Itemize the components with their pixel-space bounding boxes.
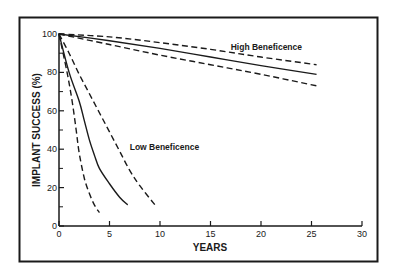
x-tick-label: 10 [155, 229, 165, 239]
annotation-1: Low Beneficence [130, 142, 200, 152]
y-tick-label: 100 [42, 29, 57, 39]
series-line-1 [59, 34, 317, 74]
chart: 051015202530020406080100 High Beneficenc… [0, 0, 395, 276]
chart-frame [20, 18, 378, 262]
x-tick-label: 0 [56, 229, 61, 239]
x-tick-label: 30 [357, 229, 367, 239]
y-tick-label: 60 [47, 106, 57, 116]
plot-lines [59, 34, 317, 213]
annotation-0: High Beneficence [231, 42, 303, 52]
axes: 051015202530020406080100 [42, 29, 367, 239]
y-tick-label: 80 [47, 67, 57, 77]
y-tick-label: 40 [47, 144, 57, 154]
x-axis-label: YEARS [193, 242, 228, 253]
chart-svg: 051015202530020406080100 High Beneficenc… [0, 0, 395, 276]
x-tick-label: 25 [306, 229, 316, 239]
y-tick-label: 0 [52, 221, 57, 231]
x-tick-label: 20 [256, 229, 266, 239]
x-tick-label: 15 [205, 229, 215, 239]
series-line-5 [59, 34, 99, 213]
y-axis-label: IMPLANT SUCCESS (%) [31, 73, 42, 187]
x-tick-label: 5 [107, 229, 112, 239]
y-tick-label: 20 [47, 183, 57, 193]
series-line-4 [59, 34, 128, 205]
